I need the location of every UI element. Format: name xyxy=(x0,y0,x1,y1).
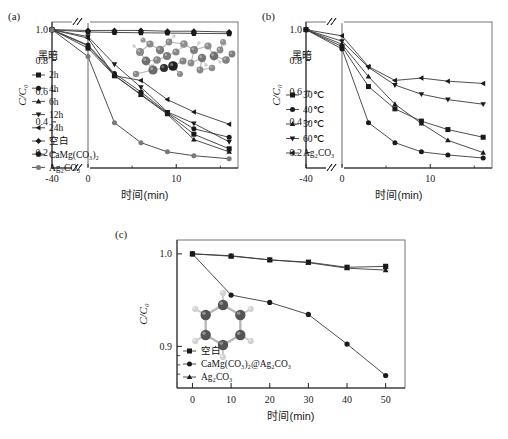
molecule-atom xyxy=(148,65,157,74)
legend-label: CaMg(CO₃)₂@Ag₂CO₃ xyxy=(201,359,291,370)
data-point-marker xyxy=(392,106,397,111)
legend-label: 空白 xyxy=(49,135,69,146)
molecule-atom-c xyxy=(200,310,210,320)
panel-a-plot: 0.20.40.60.81.0-40010时间(min)C/C₀黑暗2h4h6h… xyxy=(0,0,254,215)
molecule-atom-h xyxy=(248,338,254,344)
molecule-atom xyxy=(209,65,215,71)
series-line xyxy=(192,254,385,270)
data-point-marker xyxy=(481,135,486,140)
data-point-marker xyxy=(187,362,192,367)
atom-highlight xyxy=(220,302,224,306)
atom-highlight xyxy=(202,312,206,316)
legend-label: 60℃ xyxy=(303,134,324,144)
axis-break-mark xyxy=(72,18,90,25)
molecule-atom xyxy=(136,48,144,56)
molecule-atom-c xyxy=(218,300,228,310)
panel-b-tag: (b) xyxy=(262,10,275,22)
atom-highlight xyxy=(224,58,227,61)
x-tick-label: 0 xyxy=(86,173,91,184)
x-axis-label: 时间(min) xyxy=(267,410,314,422)
molecule-atom xyxy=(204,42,211,49)
y-tick-label: 1.0 xyxy=(160,248,173,259)
panel-a-tag: (a) xyxy=(8,10,20,22)
atom-highlight xyxy=(161,65,164,68)
data-point-marker xyxy=(229,292,234,297)
atom-highlight xyxy=(211,53,214,56)
data-point-marker xyxy=(392,78,397,84)
x-tick-label: 10 xyxy=(226,394,236,405)
y-axis-label: C/C₀ xyxy=(16,84,28,106)
panel-c-tag: (c) xyxy=(115,228,127,240)
atom-highlight xyxy=(174,50,176,52)
data-point-marker xyxy=(138,78,143,84)
series-3 xyxy=(190,251,389,272)
data-point-marker xyxy=(480,81,485,87)
data-point-marker xyxy=(191,132,196,137)
axis-break-mark xyxy=(326,164,344,171)
dark-region-label: 黑暗 xyxy=(292,49,312,61)
molecule-atom-h xyxy=(192,306,198,312)
data-point-marker xyxy=(36,165,41,170)
panel-c: 0.91.001020304050时间(min)C/C₀空白CaMg(CO₃)₂… xyxy=(105,218,425,439)
atom-highlight xyxy=(206,44,208,46)
molecule-atom xyxy=(197,67,204,74)
atom-highlight xyxy=(221,291,223,293)
atom-highlight xyxy=(141,38,143,40)
legend-label: 24h xyxy=(49,123,64,133)
atom-highlight xyxy=(249,339,251,341)
panel-b-plot: 0.20.40.60.81.0-40010时间(min)C/C₀黑暗30℃40℃… xyxy=(254,0,508,215)
y-tick-label: 0.4 xyxy=(36,116,49,127)
atom-highlight xyxy=(221,40,223,42)
atom-highlight xyxy=(182,42,185,45)
data-point-marker xyxy=(227,156,232,161)
legend-label: Ag₂CO₃ xyxy=(201,372,232,382)
data-point-marker xyxy=(86,54,91,59)
molecule-atom xyxy=(142,57,151,66)
atom-highlight xyxy=(157,47,160,50)
molecule-atom xyxy=(146,40,153,47)
data-point-marker xyxy=(445,127,450,132)
molecule-atom-h xyxy=(248,306,254,312)
atom-highlight xyxy=(167,40,169,42)
legend-label: 40℃ xyxy=(303,105,324,115)
data-point-marker xyxy=(191,126,196,131)
x-tick-label: 10 xyxy=(425,173,435,184)
series-5 xyxy=(303,27,485,86)
x-tick-label: 0 xyxy=(340,173,345,184)
atom-highlight xyxy=(164,53,167,56)
data-point-marker xyxy=(50,27,55,32)
atom-highlight xyxy=(148,42,150,44)
atom-highlight xyxy=(178,72,180,74)
molecule-atom xyxy=(163,52,171,60)
panel-a: 0.20.40.60.81.0-40010时间(min)C/C₀黑暗2h4h6h… xyxy=(0,0,254,215)
axis-break-mark xyxy=(326,18,344,25)
legend-label: 6h xyxy=(49,97,59,107)
data-point-marker xyxy=(340,46,345,51)
atom-highlight xyxy=(150,67,153,70)
data-point-marker xyxy=(366,120,371,125)
data-point-marker xyxy=(445,152,450,157)
molecule-atom xyxy=(204,63,207,66)
data-point-marker xyxy=(290,107,295,112)
series-3 xyxy=(303,27,486,155)
molecule-atom xyxy=(160,64,168,72)
legend: 空白CaMg(CO₃)₂@Ag₂CO₃Ag₂CO₃ xyxy=(183,345,291,382)
x-axis-label: 时间(min) xyxy=(375,189,422,201)
y-axis-label: C/C₀ xyxy=(137,303,149,325)
molecule-atom xyxy=(132,44,135,47)
data-point-marker xyxy=(481,156,486,161)
atom-highlight xyxy=(230,52,232,54)
molecule-atom-h xyxy=(192,338,198,344)
y-tick-label: 1.0 xyxy=(36,24,49,35)
molecule-atom xyxy=(166,39,173,46)
data-point-marker xyxy=(306,312,311,317)
atom-highlight xyxy=(221,355,223,357)
molecule-atom-c xyxy=(200,330,210,340)
panel-c-plot: 0.91.001020304050时间(min)C/C₀空白CaMg(CO₃)₂… xyxy=(105,218,425,439)
y-tick-label: 0.9 xyxy=(160,341,173,352)
molecule-atom xyxy=(220,39,226,45)
molecule-atom-c xyxy=(235,330,245,340)
atom-highlight xyxy=(191,47,194,50)
legend-label: Ag₂CO₃ xyxy=(303,148,334,158)
legend-label: 4h xyxy=(49,84,59,94)
